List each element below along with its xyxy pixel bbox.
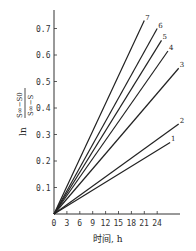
y-tick-label: 0.6 [36, 51, 51, 60]
x-axis-label: 时间, h [93, 233, 123, 244]
series-label-6: 6 [158, 22, 163, 30]
x-tick-label: 15 [114, 219, 124, 228]
svg-text:S∞−S: S∞−S [27, 95, 35, 116]
series-label-4: 4 [169, 44, 174, 52]
svg-text:ln: ln [18, 127, 28, 136]
series-label-1: 1 [171, 135, 175, 143]
x-tick-label: 21 [139, 219, 149, 228]
series-label-2: 2 [180, 117, 184, 125]
series-line-2 [54, 124, 179, 214]
chart: 0.10.20.30.40.50.60.703691215182124 1234… [0, 0, 196, 251]
x-tick-label: 6 [77, 219, 82, 228]
axes: 0.10.20.30.40.50.60.703691215182124 [36, 10, 180, 228]
series-label-5: 5 [163, 33, 167, 41]
series-line-6 [54, 29, 157, 215]
y-axis-label: ln S∞−S0 S∞−S [16, 88, 35, 136]
x-tick-label: 3 [64, 219, 69, 228]
series-line-5 [54, 40, 162, 214]
x-tick-label: 18 [126, 219, 136, 228]
series-label-7: 7 [145, 14, 149, 22]
x-tick-label: 9 [90, 219, 95, 228]
y-tick-label: 0.5 [36, 78, 51, 87]
x-tick-label: 0 [52, 219, 57, 228]
series-label-3: 3 [180, 61, 184, 69]
y-tick-label: 0.4 [36, 104, 51, 113]
x-tick-label: 24 [152, 219, 162, 228]
svg-text:S∞−S0: S∞−S0 [16, 92, 24, 118]
series-line-3 [54, 68, 179, 214]
data-lines [54, 21, 179, 214]
y-tick-label: 0.7 [36, 25, 51, 34]
series-line-7 [54, 21, 144, 214]
y-tick-label: 0.1 [36, 184, 51, 193]
y-tick-label: 0.3 [36, 131, 51, 140]
series-line-1 [54, 142, 170, 214]
y-tick-label: 0.2 [36, 157, 51, 166]
series-line-4 [54, 51, 168, 214]
x-tick-label: 12 [101, 219, 111, 228]
